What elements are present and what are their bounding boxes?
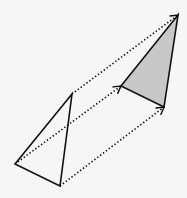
translation-diagram	[0, 0, 187, 198]
image-triangle	[121, 15, 178, 107]
translation-vector-arrow	[60, 107, 164, 186]
original-triangle	[15, 94, 72, 186]
